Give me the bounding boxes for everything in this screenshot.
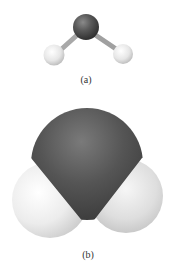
hydrogen-atom-right — [113, 44, 133, 64]
hydrogen-atom-left — [44, 45, 65, 66]
space-filling-model — [12, 108, 163, 238]
panel-label-b: (b) — [68, 249, 108, 261]
panel-label-a: (a) — [66, 74, 106, 86]
ball-and-stick-model — [44, 14, 134, 66]
water-molecule-figure — [0, 0, 172, 272]
oxygen-atom — [73, 14, 99, 40]
